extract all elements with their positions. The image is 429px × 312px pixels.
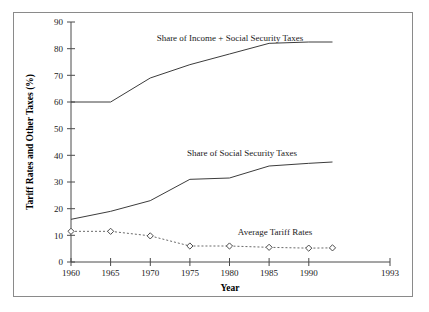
y-tick-labels: 90 80 70 60 50 40 30 20 10 0 xyxy=(54,17,64,267)
data-point-marker xyxy=(68,228,74,234)
series-label-bottom: Average Tariff Rates xyxy=(238,227,313,237)
y-tick-label: 70 xyxy=(54,71,64,81)
x-tick-label: 1960 xyxy=(62,268,81,278)
x-tick-labels: 1960 1965 1970 1975 1980 1985 1990 1993 xyxy=(62,268,400,278)
x-tick-label: 1975 xyxy=(181,268,200,278)
y-tick-label: 0 xyxy=(59,257,64,267)
y-tick-label: 40 xyxy=(54,151,64,161)
y-tick-label: 90 xyxy=(54,17,64,27)
x-tick-label: 1970 xyxy=(141,268,160,278)
series-line-1 xyxy=(71,42,332,102)
y-tick-label: 30 xyxy=(54,177,64,187)
data-point-marker xyxy=(329,245,335,251)
x-tick-label: 1980 xyxy=(221,268,240,278)
x-axis-title: Year xyxy=(221,283,241,293)
x-tick-label: 1965 xyxy=(102,268,121,278)
data-point-marker xyxy=(266,244,272,250)
y-tick-label: 20 xyxy=(54,204,64,214)
series-label-middle: Share of Social Security Taxes xyxy=(187,148,298,158)
y-tick-label: 60 xyxy=(54,97,64,107)
data-point-marker xyxy=(147,233,153,239)
data-point-marker xyxy=(187,243,193,249)
series-line-2 xyxy=(71,162,332,219)
y-tick-label: 80 xyxy=(54,44,64,54)
x-tick-label: 1985 xyxy=(260,268,279,278)
series-label-top: Share of Income + Social Security Taxes xyxy=(157,33,304,43)
series-layer xyxy=(68,42,336,251)
x-tick-label: 1993 xyxy=(381,268,400,278)
data-point-marker xyxy=(108,228,114,234)
x-tick-label: 1990 xyxy=(300,268,319,278)
y-tick-label: 50 xyxy=(54,124,64,134)
data-point-marker xyxy=(306,245,312,251)
data-point-marker xyxy=(226,243,232,249)
y-axis-title: Tariff Rates and Other Taxes (%) xyxy=(25,74,36,210)
chart-canvas: 90 80 70 60 50 40 30 20 10 0 1960 1965 1… xyxy=(0,0,429,312)
y-tick-label: 10 xyxy=(54,231,64,241)
